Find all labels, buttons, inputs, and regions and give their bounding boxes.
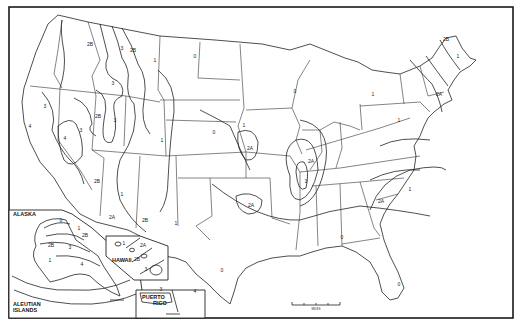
alaska-label: ALASKA [13, 211, 36, 217]
seismic-zone-map: ALASKA ALEUTIAN ISLANDS HAWAII PUERTO RI… [0, 0, 521, 329]
zone-label-hi-3: 3 [145, 266, 148, 272]
zone-label-me-1: 1 [457, 53, 460, 59]
zone-label-ak-2b-w: 2B [48, 242, 55, 248]
zone-label-nm-1: 1 [175, 220, 178, 226]
zone-label-ut-2b: 2B [94, 178, 101, 184]
zone-label-hi-2a: 2A [140, 242, 147, 248]
zone-label-ak-1: 1 [78, 225, 81, 231]
zone-label-co-1: 1 [161, 137, 164, 143]
zone-label-sc-2a: 2A [378, 198, 385, 204]
zone-label-ak-3: 3 [69, 244, 72, 250]
zone-label-az-2a: 2A [109, 214, 116, 220]
zone-label-ok-2a: 2A [248, 202, 255, 208]
zone-label-nv-2b: 2B [95, 113, 102, 119]
zone-label-ga-0: 0 [341, 234, 344, 240]
hawaii-label: HAWAII [112, 257, 132, 263]
zone-label-me-2b: 2B [443, 36, 450, 42]
zone-label-il-2a: 2A [308, 158, 315, 164]
rico-label: RICO [153, 300, 167, 306]
scale-label: MILES [311, 307, 320, 311]
zone-label-nd-0: 0 [194, 53, 197, 59]
zone-label-wa-2b: 2B [87, 41, 94, 47]
zone-label-ca-4: 4 [29, 123, 32, 129]
zone-label-nv-5: 3 [80, 127, 83, 133]
zone-label-ca-3: 3 [44, 103, 47, 109]
zone-label-ny-2a: 2A [436, 91, 443, 97]
zone-label-wi-0: 0 [294, 88, 297, 94]
zone-label-nm-2b: 2B [142, 217, 149, 223]
zone-label-pa-1: 1 [398, 117, 401, 123]
zone-label-pr-4: 4 [194, 288, 197, 294]
scale-bar: MILES [292, 302, 340, 311]
zone-label-tx-0: 0 [221, 267, 224, 273]
zone-label-ak-1-w: 1 [49, 257, 52, 263]
zone-label-ne-0: 0 [213, 129, 216, 135]
zone-label-fl-0: 0 [398, 281, 401, 287]
zone-label-ks-1: 1 [243, 122, 246, 128]
zone-label-wy-3: 3 [112, 80, 115, 86]
zone-label-ak-2b: 2B [82, 232, 89, 238]
zone-label-id-3: 3 [121, 45, 124, 51]
zone-label-hi-2b: 2B [134, 256, 141, 262]
zone-label-ut-3: 3 [114, 117, 117, 123]
zone-label-mi-1: 1 [372, 91, 375, 97]
zone-label-nv-4: 4 [64, 135, 67, 141]
zone-label-ak-4: 4 [81, 261, 84, 267]
zone-label-az-1: 1 [121, 191, 124, 197]
zone-label-ks-2a: 2A [247, 145, 254, 151]
zone-label-nc-1: 1 [409, 186, 412, 192]
islands-label: ISLANDS [13, 307, 37, 313]
zone-label-mt-2b: 2B [130, 47, 137, 53]
zone-label-pr-3: 3 [160, 286, 163, 292]
zone-label-mt-1: 1 [154, 57, 157, 63]
zone-label-nm-3: 3 [305, 178, 308, 184]
zone-label-ak-0: 0 [60, 217, 63, 223]
zone-label-hi-1: 1 [123, 240, 126, 246]
